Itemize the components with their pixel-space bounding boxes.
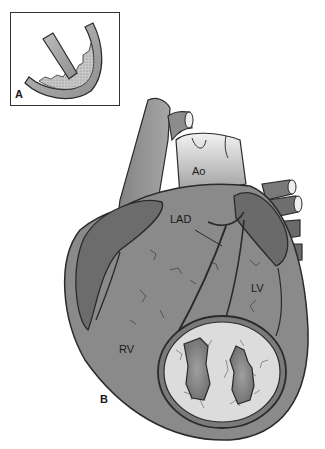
infarct-zone [164,322,280,422]
heart-illustration [0,0,325,449]
panel-b-label: B [100,394,108,405]
label-lad: LAD [170,214,191,225]
medical-figure: A [0,0,325,449]
label-right-ventricle: RV [119,344,134,355]
label-aorta: Ao [192,166,205,177]
label-left-ventricle: LV [251,283,264,294]
